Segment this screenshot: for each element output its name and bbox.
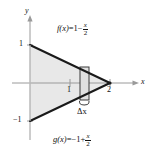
x-axis-label: x	[141, 78, 145, 86]
function-label-f: f(x)=1−x2	[57, 22, 88, 37]
delta-x-brace	[80, 102, 90, 106]
function-f-fraction: x2	[83, 22, 89, 37]
x-tick-label-1: 1	[67, 86, 71, 94]
function-label-g: g(x)=−1+x2	[53, 133, 91, 148]
x-tick-label-2: 2	[107, 86, 111, 94]
function-g-constant: −1	[71, 134, 80, 144]
function-g-lhs: g(x)	[53, 134, 67, 144]
y-tick-label-1: 1	[19, 40, 23, 48]
function-g-denominator: 2	[85, 141, 91, 148]
y-tick-label-neg1: −1	[13, 116, 22, 124]
delta-x-label: Δx	[77, 107, 87, 116]
figure-area-between-curves: y x 1 −1 1 2 f(x)=1−x2 g(x)=−1+x2 Δx	[0, 0, 150, 162]
x-axis-arrowhead	[133, 80, 140, 85]
function-g-fraction: x2	[85, 133, 91, 148]
function-f-lhs: f(x)	[57, 23, 69, 33]
function-f-denominator: 2	[83, 30, 89, 37]
y-axis-arrowhead	[27, 15, 32, 22]
y-axis-label: y	[25, 7, 29, 15]
